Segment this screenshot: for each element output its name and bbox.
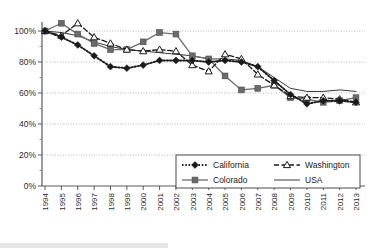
data-point-marker: [74, 42, 81, 49]
chart-legend: CaliforniaWashingtonColoradoUSA: [176, 155, 360, 188]
legend-label: California: [213, 160, 249, 170]
legend-label: Colorado: [213, 175, 248, 185]
data-point-marker: [192, 177, 198, 183]
x-tick-label: 2007: [254, 192, 263, 210]
x-tick-label: 1997: [90, 192, 99, 210]
data-point-marker: [123, 65, 130, 72]
y-axis-ticks: 0%20%40%60%80%100%: [14, 26, 42, 191]
y-tick-label: 100%: [14, 26, 36, 36]
data-point-marker: [108, 47, 114, 53]
x-tick-label: 2006: [238, 192, 247, 210]
data-point-marker: [91, 41, 97, 47]
x-tick-label: 2008: [270, 192, 279, 210]
data-point-marker: [172, 48, 179, 54]
data-point-marker: [91, 52, 98, 59]
data-point-marker: [255, 85, 261, 91]
caption-fragment: [0, 243, 168, 248]
series-line: [45, 23, 356, 102]
data-point-marker: [221, 51, 228, 57]
gridlines: [42, 31, 365, 155]
data-point-marker: [173, 31, 179, 37]
y-tick-label: 60%: [19, 88, 36, 98]
line-chart-canvas: 0%20%40%60%80%100%1994199519961997199819…: [0, 0, 371, 249]
x-tick-label: 2011: [319, 192, 328, 210]
chart-figure: 0%20%40%60%80%100%1994199519961997199819…: [0, 0, 371, 249]
data-point-marker: [157, 30, 163, 36]
data-point-marker: [222, 73, 228, 79]
y-tick-label: 80%: [19, 57, 36, 67]
x-tick-label: 1998: [107, 192, 116, 210]
x-tick-label: 2009: [287, 192, 296, 210]
y-tick-label: 40%: [19, 119, 36, 129]
x-tick-label: 2003: [189, 192, 198, 210]
x-tick-label: 2004: [205, 192, 214, 210]
x-tick-label: 1999: [123, 192, 132, 210]
data-point-marker: [156, 46, 163, 52]
x-tick-label: 2001: [156, 192, 165, 210]
y-tick-label: 20%: [19, 150, 36, 160]
legend-label: Washington: [305, 160, 350, 170]
data-point-marker: [74, 20, 81, 26]
data-point-marker: [173, 57, 180, 64]
x-tick-label: 2012: [336, 192, 345, 210]
x-tick-label: 2000: [139, 192, 148, 210]
data-point-marker: [140, 39, 146, 45]
x-tick-label: 1994: [41, 192, 50, 210]
x-tick-label: 1996: [74, 192, 83, 210]
data-point-marker: [140, 62, 147, 69]
x-tick-label: 2005: [221, 192, 230, 210]
data-point-marker: [107, 40, 114, 46]
data-point-marker: [107, 63, 114, 70]
x-tick-label: 1995: [58, 192, 67, 210]
y-tick-label: 0%: [24, 181, 37, 191]
legend-label: USA: [305, 175, 323, 185]
x-tick-label: 2002: [172, 192, 181, 210]
data-point-marker: [239, 87, 245, 93]
x-tick-label: 2013: [352, 192, 361, 210]
data-point-marker: [75, 31, 81, 37]
x-axis-ticks: 1994199519961997199819992000200120022003…: [41, 186, 361, 211]
data-point-marker: [222, 57, 229, 64]
caption-smudge: [0, 243, 168, 248]
data-point-marker: [58, 20, 64, 26]
x-tick-label: 2010: [303, 192, 312, 210]
data-point-marker: [156, 57, 163, 64]
